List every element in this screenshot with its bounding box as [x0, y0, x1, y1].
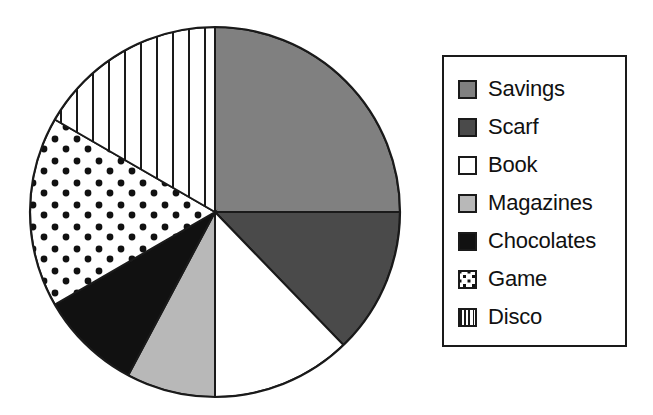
legend-item-label: Chocolates: [488, 230, 596, 252]
swatch-dots-icon: [458, 270, 477, 289]
legend-item-game[interactable]: Game: [458, 260, 619, 298]
pie-slice-savings[interactable]: [215, 27, 400, 212]
legend-item-magazines[interactable]: Magazines: [458, 184, 619, 222]
swatch-white-icon: [458, 156, 477, 175]
legend-item-label: Game: [488, 268, 547, 290]
chart-canvas: SavingsScarfBookMagazinesChocolatesGameD…: [0, 0, 653, 415]
pie-chart: [28, 24, 404, 402]
swatch-solid-dark-gray-icon: [458, 118, 477, 137]
legend-item-disco[interactable]: Disco: [458, 298, 619, 336]
swatch-black-icon: [458, 232, 477, 251]
legend-item-label: Disco: [488, 306, 542, 328]
legend-item-label: Magazines: [488, 192, 593, 214]
legend-items: SavingsScarfBookMagazinesChocolatesGameD…: [458, 70, 619, 336]
legend-item-book[interactable]: Book: [458, 146, 619, 184]
legend-item-scarf[interactable]: Scarf: [458, 108, 619, 146]
swatch-light-gray-icon: [458, 194, 477, 213]
legend-item-savings[interactable]: Savings: [458, 70, 619, 108]
swatch-solid-gray-icon: [458, 80, 477, 99]
legend-item-label: Savings: [488, 78, 565, 100]
swatch-stripes-icon: [458, 308, 477, 327]
legend-item-chocolates[interactable]: Chocolates: [458, 222, 619, 260]
legend-item-label: Book: [488, 154, 537, 176]
legend-item-label: Scarf: [488, 116, 538, 138]
pie-chart-svg: [28, 24, 404, 402]
legend: SavingsScarfBookMagazinesChocolatesGameD…: [442, 55, 627, 347]
